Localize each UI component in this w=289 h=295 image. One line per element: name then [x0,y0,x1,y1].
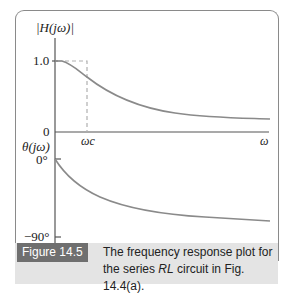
phase-curve [55,159,270,221]
cutoff-guide [58,61,87,132]
figure-number-tag: Figure 14.5 [17,243,88,262]
cutoff-frequency-label: ωc [81,134,95,149]
omega-axis-label: ω [260,134,268,149]
magnitude-ylabel: |H(jω)| [36,20,74,36]
magnitude-ytick-bottom: 0 [43,124,50,140]
caption-text: The frequency response plot for the seri… [103,244,278,295]
magnitude-ytick-top: 1.0 [33,53,49,69]
figure-caption: Figure 14.5 The frequency response plot … [15,243,278,284]
phase-ytick-top: 0° [36,152,48,168]
